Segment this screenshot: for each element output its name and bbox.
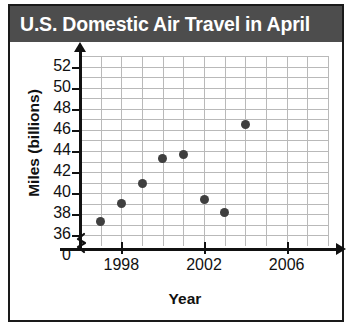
- y-tick: [72, 130, 80, 132]
- grid-hline: [80, 77, 328, 78]
- y-tick-label: 44: [53, 141, 71, 159]
- y-tick: [72, 109, 80, 111]
- data-point: [179, 150, 188, 159]
- y-axis-arrow-icon: [74, 42, 86, 52]
- grid-hline: [80, 214, 328, 215]
- x-axis-title: Year: [70, 290, 300, 308]
- grid-lines: [80, 56, 328, 246]
- grid-hline: [80, 56, 328, 57]
- data-point: [241, 120, 250, 129]
- grid-hline: [80, 151, 328, 152]
- grid-hline: [80, 172, 328, 173]
- chart-title-band: U.S. Domestic Air Travel in April: [10, 6, 342, 42]
- data-point: [138, 179, 147, 188]
- grid-hline: [80, 140, 328, 141]
- data-point: [200, 195, 209, 204]
- y-axis-line: [79, 50, 82, 250]
- grid-hline: [80, 109, 328, 110]
- y-tick-label: 38: [53, 204, 71, 222]
- y-tick-label: 46: [53, 120, 71, 138]
- y-axis-title: Miles (billions): [25, 83, 43, 203]
- grid-hline: [80, 88, 328, 89]
- y-tick-label: 52: [53, 57, 71, 75]
- y-tick: [72, 235, 80, 237]
- x-tick: [204, 242, 206, 254]
- y-tick-label-zero: 0: [62, 246, 71, 264]
- grid-hline: [80, 130, 328, 131]
- x-tick-label: 1998: [91, 256, 151, 274]
- y-tick: [72, 214, 80, 216]
- y-tick: [72, 172, 80, 174]
- y-tick-label: 40: [53, 183, 71, 201]
- y-tick: [72, 151, 80, 153]
- data-point: [220, 208, 229, 217]
- x-tick-label: 2002: [174, 256, 234, 274]
- grid-hline: [80, 183, 328, 184]
- grid-hline: [80, 225, 328, 226]
- chart-figure: U.S. Domestic Air Travel in April Miles …: [8, 4, 344, 322]
- plot-area: Miles (billions) Year 525048464442403836…: [10, 42, 342, 320]
- grid-hline: [80, 119, 328, 120]
- y-tick: [72, 67, 80, 69]
- page-title: U.S. Domestic Air Travel in April: [20, 13, 310, 36]
- grid-vline: [328, 56, 329, 246]
- x-tick: [121, 242, 123, 254]
- y-tick: [72, 193, 80, 195]
- y-tick-label: 50: [53, 78, 71, 96]
- data-point: [158, 154, 167, 163]
- y-tick-label: 42: [53, 162, 71, 180]
- y-tick-label: 36: [53, 225, 71, 243]
- y-tick-label: 48: [53, 99, 71, 117]
- grid-hline: [80, 67, 328, 68]
- grid-hline: [80, 162, 328, 163]
- y-tick: [72, 88, 80, 90]
- x-tick-label: 2006: [257, 256, 317, 274]
- x-tick: [287, 242, 289, 254]
- x-axis-line: [60, 248, 338, 251]
- x-axis-arrow-icon: [336, 243, 346, 255]
- grid-hline: [80, 235, 328, 236]
- grid-hline: [80, 98, 328, 99]
